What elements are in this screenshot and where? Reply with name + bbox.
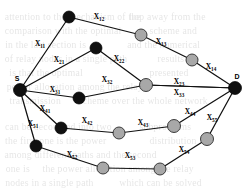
edge-label-e52: X52 xyxy=(67,150,78,160)
edge-label-e43: X43 xyxy=(138,118,149,128)
edge-e13 xyxy=(141,35,192,60)
node-n9 xyxy=(168,120,181,133)
node-n2 xyxy=(135,29,147,41)
edge-e53 xyxy=(103,168,160,169)
edge-e33 xyxy=(146,85,235,88)
edge-label-e21: X21 xyxy=(54,55,65,65)
edge-label-e42: X42 xyxy=(82,116,93,126)
diagram-canvas: X11X12X13X14X21X22X23X31X32X33X41X42X43X… xyxy=(0,0,251,188)
edge-e11 xyxy=(20,17,69,90)
node-S xyxy=(14,84,27,97)
edge-label-e55: X55 xyxy=(207,113,218,123)
node-n3 xyxy=(186,54,198,66)
edge-label-e53: X53 xyxy=(125,151,136,161)
edge-e51 xyxy=(20,90,36,146)
node-n12 xyxy=(97,162,109,174)
node-label-D: D xyxy=(234,73,239,80)
edge-e12 xyxy=(69,17,141,35)
node-n10 xyxy=(201,133,214,146)
edge-label-e14: X14 xyxy=(206,62,217,72)
node-n13 xyxy=(154,163,166,175)
node-n4 xyxy=(90,42,102,54)
node-n5 xyxy=(140,79,153,92)
edge-label-e32: X32 xyxy=(102,75,113,85)
edge-e42 xyxy=(61,128,119,133)
edge-label-e13: X13 xyxy=(156,37,167,47)
node-n1 xyxy=(63,11,75,23)
edge-label-e54: X54 xyxy=(179,145,190,155)
node-D xyxy=(229,82,242,95)
node-n7 xyxy=(55,122,67,134)
edge-label-e41: X41 xyxy=(40,104,51,114)
edge-label-e31: X31 xyxy=(50,85,61,95)
network-diagram: X11X12X13X14X21X22X23X31X32X33X41X42X43X… xyxy=(0,0,251,188)
node-label-S: S xyxy=(15,75,20,82)
edge-label-e12: X12 xyxy=(94,12,105,22)
edge-label-e51: X51 xyxy=(28,119,39,129)
edge-e14 xyxy=(192,60,235,88)
edge-label-e33: X33 xyxy=(174,88,185,98)
node-n8 xyxy=(113,127,125,139)
node-n6 xyxy=(73,92,85,104)
edge-e32 xyxy=(79,85,146,98)
edge-label-e22: X22 xyxy=(114,54,125,64)
node-n11 xyxy=(30,140,42,152)
edge-label-e44: X44 xyxy=(185,107,196,117)
edge-label-e23: X23 xyxy=(174,77,185,87)
edge-label-e11: X11 xyxy=(35,39,46,49)
